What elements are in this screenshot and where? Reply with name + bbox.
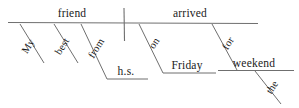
- diagram-canvas: friend arrived My best from h.s. on Frid…: [0, 0, 299, 108]
- word-on: on: [146, 35, 161, 51]
- word-weekend: weekend: [233, 57, 275, 69]
- word-my: My: [19, 36, 37, 55]
- word-for: for: [220, 35, 236, 52]
- sentence-diagram: friend arrived My best from h.s. on Frid…: [0, 0, 299, 108]
- word-friend: friend: [58, 7, 87, 19]
- word-best: best: [53, 36, 72, 57]
- word-the: the: [264, 78, 281, 95]
- subject-predicate-divider: [124, 8, 125, 41]
- word-friday: Friday: [171, 59, 202, 72]
- word-arrived: arrived: [173, 7, 207, 19]
- word-hs: h.s.: [118, 65, 135, 77]
- baseline-main: [8, 23, 258, 24]
